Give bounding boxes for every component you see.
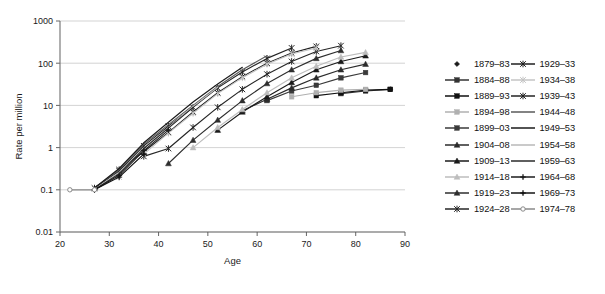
legend-key-cell bbox=[444, 153, 474, 169]
legend-label: 1899–03 bbox=[474, 120, 510, 136]
marker-square bbox=[314, 90, 319, 95]
legend-label: 1879–83 bbox=[474, 56, 510, 72]
legend-key-star-icon bbox=[444, 203, 470, 215]
legend-key-cell bbox=[510, 153, 540, 169]
legend-key-none-icon bbox=[510, 155, 536, 167]
legend-key-cell bbox=[444, 201, 474, 217]
legend-label: 1929–33 bbox=[540, 56, 576, 72]
marker-star bbox=[215, 104, 221, 111]
legend-key-star-icon bbox=[510, 58, 536, 70]
legend-key-square-grey-icon bbox=[444, 106, 470, 118]
legend-key-triangle-filled-icon bbox=[444, 187, 470, 199]
marker-square bbox=[314, 83, 319, 88]
legend-row: 1899–031949–53 bbox=[444, 120, 575, 136]
chart-figure: 0.010.111010010002030405060708090AgeRate… bbox=[0, 0, 605, 294]
legend-key-cell bbox=[510, 120, 540, 136]
marker-triangle bbox=[264, 81, 270, 86]
marker-square bbox=[388, 87, 393, 92]
legend-label: 1974–78 bbox=[540, 201, 576, 217]
plot-area: 0.010.111010010002030405060708090AgeRate… bbox=[0, 0, 420, 294]
legend-label: 1954–58 bbox=[540, 136, 576, 152]
legend-key-plus-filled-icon bbox=[510, 187, 536, 199]
legend-key-star-grey-icon bbox=[510, 74, 536, 86]
legend-row: 1924–281974–78 bbox=[444, 201, 575, 217]
legend-label: 1949–53 bbox=[540, 120, 576, 136]
marker-square bbox=[339, 88, 344, 93]
legend-key-cell bbox=[510, 136, 540, 152]
legend-table: 1879–831929–331884–881934–381889–931939–… bbox=[444, 56, 575, 217]
marker-square bbox=[339, 76, 344, 81]
legend-row: 1889–931939–43 bbox=[444, 88, 575, 104]
marker-triangle bbox=[363, 49, 369, 54]
marker-star bbox=[190, 124, 196, 131]
legend-row: 1884–881934–38 bbox=[444, 72, 575, 88]
axes bbox=[60, 21, 405, 232]
legend-key-triangle-grey-icon bbox=[444, 171, 470, 183]
legend-label: 1889–93 bbox=[474, 88, 510, 104]
marker-plus-dot bbox=[118, 176, 121, 179]
legend-key-cell bbox=[444, 56, 474, 72]
marker-circle-open bbox=[92, 188, 96, 192]
legend-key-triangle-filled-icon bbox=[444, 155, 470, 167]
legend-key-cell bbox=[444, 104, 474, 120]
marker-square bbox=[455, 110, 460, 115]
y-axis-title: Rate per million bbox=[13, 94, 24, 160]
legend-label: 1944–48 bbox=[540, 104, 576, 120]
legend-key-cell bbox=[444, 120, 474, 136]
x-tick-label: 20 bbox=[55, 239, 65, 249]
x-ticks: 2030405060708090 bbox=[55, 232, 410, 249]
legend-key-none-icon bbox=[510, 139, 536, 151]
x-tick-label: 80 bbox=[351, 239, 361, 249]
legend-row: 1919–231969–73 bbox=[444, 185, 575, 201]
legend-label: 1939–43 bbox=[540, 88, 576, 104]
x-tick-label: 60 bbox=[252, 239, 262, 249]
legend-key-cell bbox=[510, 88, 540, 104]
chart-legend: 1879–831929–331884–881934–381889–931939–… bbox=[430, 0, 605, 294]
marker-star bbox=[289, 58, 295, 65]
legend-label: 1959–63 bbox=[540, 153, 576, 169]
legend-key-cell bbox=[444, 169, 474, 185]
y-tick-label: 1 bbox=[48, 143, 53, 153]
legend-label: 1884–88 bbox=[474, 72, 510, 88]
marker-plus-dot bbox=[142, 153, 145, 156]
legend-key-square-filled-icon bbox=[444, 90, 470, 102]
legend-key-cell bbox=[444, 136, 474, 152]
marker-plus-dot bbox=[167, 129, 170, 132]
x-tick-label: 90 bbox=[400, 239, 410, 249]
y-tick-label: 10 bbox=[43, 101, 53, 111]
legend-key-cell bbox=[510, 185, 540, 201]
legend-key-cell bbox=[510, 72, 540, 88]
y-tick-label: 1000 bbox=[33, 16, 53, 26]
legend-row: 1914–181964–68 bbox=[444, 169, 575, 185]
legend-key-cell bbox=[444, 72, 474, 88]
series-line bbox=[193, 52, 366, 147]
cohort-rate-line-chart: 0.010.111010010002030405060708090AgeRate… bbox=[0, 0, 420, 294]
marker-circle-open bbox=[520, 207, 524, 211]
legend-row: 1904–081954–58 bbox=[444, 136, 575, 152]
legend-key-cell bbox=[444, 185, 474, 201]
legend-key-none-icon bbox=[510, 122, 536, 134]
x-tick-label: 70 bbox=[301, 239, 311, 249]
y-tick-label: 0.1 bbox=[40, 185, 53, 195]
marker-diamond bbox=[454, 61, 459, 66]
legend-key-star-icon bbox=[510, 90, 536, 102]
series-1934-38 bbox=[116, 45, 319, 181]
marker-square bbox=[455, 94, 460, 99]
legend-label: 1909–13 bbox=[474, 153, 510, 169]
legend-key-plus-icon bbox=[510, 171, 536, 183]
legend-key-cell bbox=[510, 104, 540, 120]
marker-square bbox=[363, 70, 368, 75]
legend-row: 1894–981944–48 bbox=[444, 104, 575, 120]
marker-triangle bbox=[264, 90, 270, 95]
legend-label: 1914–18 bbox=[474, 169, 510, 185]
legend-label: 1924–28 bbox=[474, 201, 510, 217]
legend-key-cell bbox=[444, 88, 474, 104]
marker-star bbox=[289, 45, 295, 52]
marker-square bbox=[455, 126, 460, 131]
marker-circle-open bbox=[68, 188, 72, 192]
marker-square bbox=[363, 87, 368, 92]
marker-triangle bbox=[363, 61, 369, 66]
legend-key-triangle-icon bbox=[444, 139, 470, 151]
marker-square bbox=[455, 78, 460, 83]
x-tick-label: 30 bbox=[104, 239, 114, 249]
